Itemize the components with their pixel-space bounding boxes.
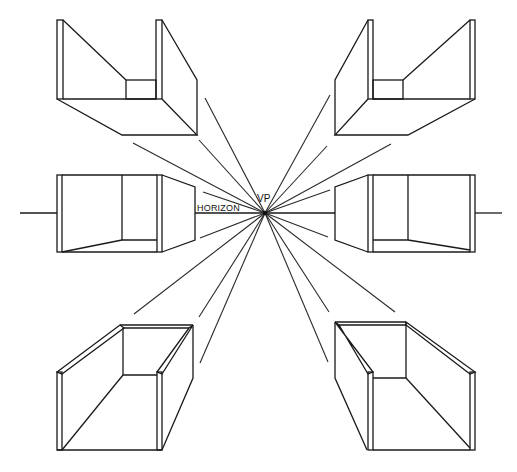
perspective-diagram: HORIZON VP (0, 0, 517, 472)
diagram-canvas (0, 0, 517, 472)
box-bottom-left (57, 325, 193, 450)
box-middle-left (57, 175, 195, 252)
box-bottom-right (335, 322, 475, 450)
box-top-left (57, 20, 197, 135)
vanishing-point-dot (263, 211, 267, 215)
horizon-label: HORIZON (197, 204, 240, 213)
box-middle-right (335, 175, 475, 252)
vanishing-point-label: VP (257, 194, 271, 204)
box-top-right (335, 20, 475, 135)
